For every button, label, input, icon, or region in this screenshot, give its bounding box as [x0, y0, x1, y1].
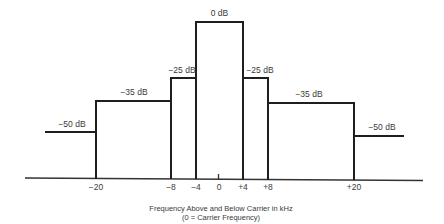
inner-left-level-label: −25 dB [168, 65, 196, 75]
tick-label-minus-8: −8 [166, 182, 176, 192]
tick-label-minus-4: −4 [191, 182, 201, 192]
carrier-block [196, 22, 243, 180]
tick-label-minus-20: −20 [89, 182, 104, 192]
outer-right-level-label: −50 dB [368, 122, 396, 132]
carrier-level-label: 0 dB [211, 8, 229, 18]
tick-label-plus-20: +20 [347, 182, 362, 192]
inner-right-level-label: −25 dB [246, 65, 274, 75]
inner-right-block [243, 78, 268, 180]
mid-left-block [96, 101, 171, 179]
tick-label-0: 0 [217, 182, 222, 192]
outer-left-level-label: −50 dB [58, 119, 86, 129]
mid-left-level-label: −35 dB [120, 87, 148, 97]
tick-label-plus-8: +8 [263, 182, 273, 192]
tick-label-plus-4: +4 [238, 182, 248, 192]
mid-right-level-label: −35 dB [295, 89, 323, 99]
axis-caption-line2: (0 = Carrier Frequency) [182, 213, 261, 222]
frequency-axis [25, 178, 423, 181]
spectrum-mask-diagram: 0 dB −25 dB −25 dB −35 dB −35 dB −50 dB … [0, 0, 444, 224]
mid-right-block [268, 103, 354, 180]
axis-caption-line1: Frequency Above and Below Carrier in kHz [149, 204, 293, 213]
inner-left-block [171, 78, 196, 179]
spectrum-mask-outline [45, 22, 404, 180]
